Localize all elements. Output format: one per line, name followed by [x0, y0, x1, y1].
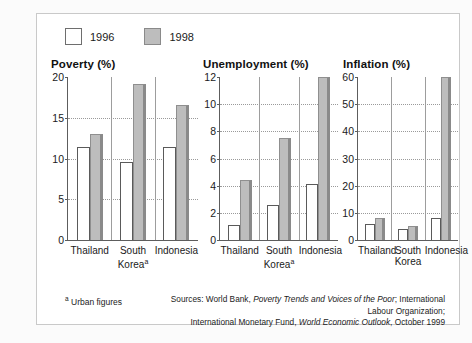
y-axis-tick-label: 6: [210, 153, 220, 165]
bar-south-korea-1998: [133, 84, 146, 240]
bar-south-korea-1998: [408, 226, 418, 240]
y-axis-tick-label: 5: [58, 193, 68, 205]
bar-south-korea-1996: [267, 205, 279, 240]
plot-area: 05101520ThailandSouthKoreaaIndonesia: [67, 77, 198, 241]
sources-line2-suffix: , October 1999: [390, 317, 445, 327]
y-axis-tick-label: 0: [210, 234, 220, 246]
y-axis-tick-label: 4: [210, 180, 220, 192]
x-axis-category-label: SouthKoreaa: [111, 245, 154, 270]
bar-thailand-1998: [90, 134, 103, 240]
bar-thailand-1998: [375, 218, 385, 240]
group-divider: [155, 77, 156, 240]
sources-note: Sources: World Bank, Poverty Trends and …: [155, 294, 445, 329]
y-axis-tick-label: 15: [52, 112, 68, 124]
footnote: a Urban figures: [65, 295, 122, 307]
y-axis-tick-label: 12: [204, 71, 220, 83]
x-axis-category-label: Indonesia: [425, 245, 458, 256]
y-axis-tick-label: 0: [348, 234, 358, 246]
legend-label-1998: 1998: [169, 31, 193, 43]
plot-area: 0102030405060ThailandSouthKoreaIndonesia: [357, 77, 458, 241]
bar-south-korea-1998: [279, 138, 291, 240]
bar-indonesia-1996: [306, 184, 318, 240]
y-axis-tick-label: 20: [52, 71, 68, 83]
panel-title: Inflation (%): [343, 58, 410, 70]
footnote-marker: a: [65, 295, 69, 302]
sources-line2-title: World Economic Outlook: [299, 317, 390, 327]
y-axis-tick-label: 40: [342, 125, 358, 137]
x-axis-category-label: Thailand: [358, 245, 391, 256]
figure-frame: 1996 1998 Poverty (%)05101520ThailandSou…: [36, 13, 460, 325]
sources-line-2: International Monetary Fund, World Econo…: [155, 317, 445, 329]
group-divider: [259, 77, 260, 240]
bar-thailand-1996: [365, 224, 375, 240]
bar-thailand-1996: [77, 147, 90, 240]
group-divider: [391, 77, 392, 240]
chart-panel-inflation: Inflation (%)0102030405060ThailandSouthK…: [325, 58, 463, 283]
sources-line2-prefix: International Monetary Fund,: [190, 317, 298, 327]
y-axis-tick-label: 8: [210, 125, 220, 137]
panel-title: Poverty (%): [51, 58, 115, 70]
legend-item-1998: 1998: [144, 28, 193, 45]
legend-item-1996: 1996: [65, 28, 114, 45]
x-axis-category-label: SouthKoreaa: [259, 245, 298, 270]
plot-area: 024681012ThailandSouthKoreaaIndonesia: [219, 77, 338, 241]
y-axis-tick-label: 10: [342, 207, 358, 219]
bar-indonesia-1998: [318, 77, 330, 240]
bar-south-korea-1996: [398, 229, 408, 240]
figure-canvas: 1996 1998 Poverty (%)05101520ThailandSou…: [0, 0, 472, 343]
sources-line-1: Sources: World Bank, Poverty Trends and …: [155, 294, 445, 317]
footnote-text: Urban figures: [71, 297, 122, 307]
bar-indonesia-1998: [176, 105, 189, 240]
group-divider: [425, 77, 426, 240]
bar-thailand-1998: [240, 180, 252, 240]
y-axis-tick-label: 2: [210, 207, 220, 219]
sources-line1-title: Poverty Trends and Voices of the Poor: [253, 294, 395, 304]
bar-south-korea-1996: [120, 162, 133, 240]
panel-title: Unemployment (%): [203, 58, 309, 70]
chart-panels: Poverty (%)05101520ThailandSouthKoreaaIn…: [37, 58, 461, 283]
y-axis-tick-label: 20: [342, 180, 358, 192]
y-axis-tick-label: 60: [342, 71, 358, 83]
x-axis-category-label: SouthKorea: [391, 245, 424, 267]
group-divider: [299, 77, 300, 240]
sources-line1-prefix: Sources: World Bank,: [171, 294, 253, 304]
bar-indonesia-1998: [441, 77, 451, 240]
y-axis-tick-label: 0: [58, 234, 68, 246]
legend-swatch-1996: [65, 28, 82, 45]
x-axis-category-label: Thailand: [68, 245, 111, 256]
y-axis-tick-label: 50: [342, 98, 358, 110]
bar-thailand-1996: [228, 225, 240, 240]
chart-legend: 1996 1998: [65, 28, 224, 45]
chart-panel-poverty: Poverty (%)05101520ThailandSouthKoreaaIn…: [37, 58, 203, 283]
y-axis-tick-label: 10: [204, 98, 220, 110]
group-divider: [111, 77, 112, 240]
chart-panel-unemployment: Unemployment (%)024681012ThailandSouthKo…: [189, 58, 343, 283]
legend-swatch-1998: [144, 28, 161, 45]
bar-indonesia-1996: [163, 147, 176, 240]
y-axis-tick-label: 30: [342, 153, 358, 165]
legend-label-1996: 1996: [90, 31, 114, 43]
x-axis-category-label: Thailand: [220, 245, 259, 256]
bar-indonesia-1996: [431, 218, 441, 240]
y-axis-tick-label: 10: [52, 153, 68, 165]
